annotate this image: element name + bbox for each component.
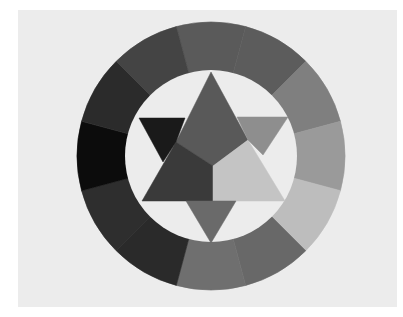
color-wheel bbox=[0, 0, 403, 317]
